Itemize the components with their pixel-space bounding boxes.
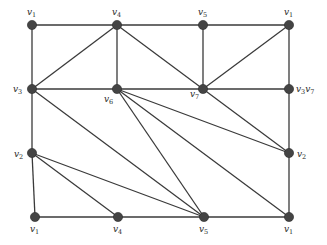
edge-n9-n11 <box>32 153 35 217</box>
vertex-node <box>112 20 121 29</box>
vertex-node <box>112 84 121 93</box>
vertex-label: v6 <box>104 94 113 106</box>
edges-group <box>32 25 289 217</box>
vertex-label: v2 <box>14 149 23 161</box>
edge-n7-n10 <box>203 89 289 153</box>
vertex-label: v4 <box>113 224 122 236</box>
vertex-node <box>30 212 39 221</box>
edge-n4-n7 <box>203 25 289 89</box>
vertex-label: v5 <box>199 224 208 236</box>
vertex-label: v5 <box>198 7 207 19</box>
edge-n6-n10 <box>117 89 289 153</box>
vertex-node <box>27 84 36 93</box>
vertex-label: v4 <box>112 7 121 19</box>
vertex-label: v2 <box>297 149 306 161</box>
vertex-label: v1 <box>27 7 36 19</box>
edge-n6-n14 <box>117 89 289 217</box>
vertex-label: v3 <box>13 84 22 96</box>
edge-n9-n12 <box>32 153 118 217</box>
vertex-node <box>284 20 293 29</box>
vertex-label: v1 <box>284 224 293 236</box>
edge-n5-n13 <box>32 89 204 217</box>
vertex-node <box>27 20 36 29</box>
graph-diagram: v1v4v5v1v3v6v7v3v7v2v2v1v4v5v1 <box>0 0 327 245</box>
edge-n6-n13 <box>117 89 204 217</box>
edge-n2-n5 <box>32 25 117 89</box>
vertex-label: v7 <box>190 89 199 101</box>
vertex-label: v1 <box>284 7 293 19</box>
edge-n2-n7 <box>117 25 203 89</box>
vertex-node <box>199 212 208 221</box>
vertex-node <box>284 84 293 93</box>
vertex-node <box>27 148 36 157</box>
vertex-node <box>198 20 207 29</box>
vertex-node <box>198 84 207 93</box>
vertex-label: v3v7 <box>296 84 314 96</box>
edge-n9-n13 <box>32 153 204 217</box>
vertex-label: v1 <box>30 224 39 236</box>
vertex-node <box>284 212 293 221</box>
vertex-node <box>113 212 122 221</box>
vertex-node <box>284 148 293 157</box>
